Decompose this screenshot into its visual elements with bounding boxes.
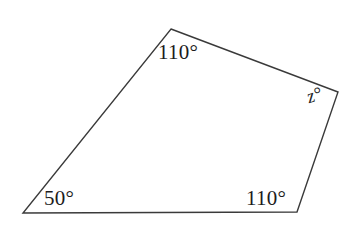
geometry-diagram: 110° z° 50° 110° (0, 0, 360, 231)
angle-label-top-apex: 110° (158, 42, 198, 63)
angle-label-bottom-right: 110° (246, 188, 286, 209)
angle-label-bottom-left: 50° (44, 188, 74, 209)
